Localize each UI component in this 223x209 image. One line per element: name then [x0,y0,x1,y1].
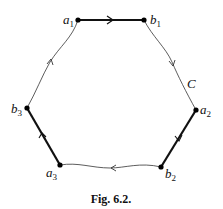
segment-a3-b3 [27,108,60,165]
label-a3: a3 [46,165,58,182]
figure-canvas: a1 b1 a2 b2 a3 b3 C Fig. 6.2. [0,0,223,209]
label-b1: b1 [150,12,161,29]
label-a1: a1 [63,12,74,29]
vertex-b2 [158,164,163,169]
figure-caption: Fig. 6.2. [91,192,132,206]
vertex-a3 [57,162,62,167]
vertex-a1 [75,17,80,22]
label-b2: b2 [165,166,176,183]
label-a2: a2 [200,102,211,119]
label-b3: b3 [11,101,23,118]
vertex-b3 [24,105,29,110]
curve-label-C: C [187,76,196,91]
segment-a2-b2 [161,110,196,167]
vertex-b1 [141,17,146,22]
curve-b1-a2 [144,20,196,110]
curve-b2-a3 [60,164,161,168]
vertex-a2 [193,107,198,112]
